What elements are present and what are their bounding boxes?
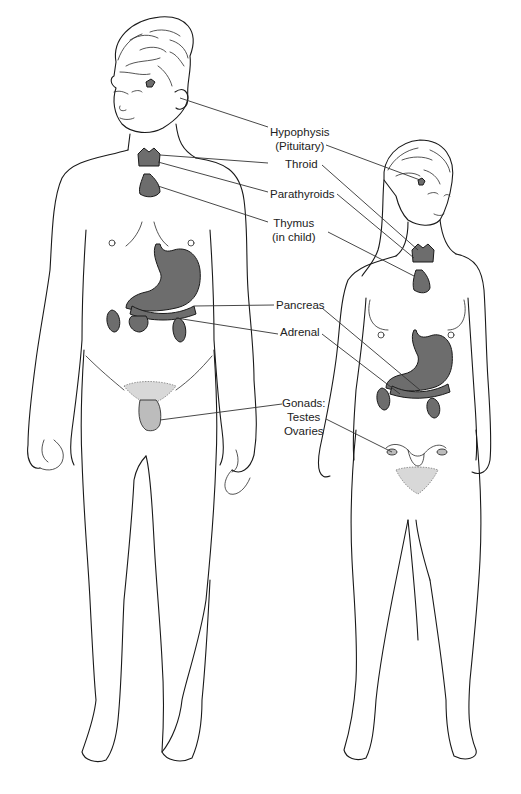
male-brain (118, 30, 188, 86)
label-parathyroids: Parathyroids (270, 187, 335, 201)
male-pituitary (146, 79, 155, 87)
label-adrenal: Adrenal (280, 325, 320, 339)
female-brain (388, 148, 450, 184)
male-thyroid (138, 148, 160, 166)
female-hair (362, 180, 384, 276)
female-kidney-right (427, 398, 440, 418)
male-testes (139, 400, 161, 431)
male-left-hand (40, 440, 63, 470)
label-thymus: Thymus (in child) (272, 216, 315, 244)
male-kidney-right (173, 318, 186, 342)
male-duodenum (129, 316, 148, 332)
male-thymus (139, 174, 160, 197)
female-stomach (386, 330, 452, 391)
label-thyroid: Throid (285, 157, 318, 171)
female-ovary-right (437, 449, 447, 455)
male-ear (175, 90, 188, 110)
female-uterus (386, 444, 446, 466)
female-kidney-left (377, 388, 390, 410)
male-face (114, 91, 142, 120)
female-pubic-hair (396, 467, 438, 494)
label-pancreas: Pancreas (276, 298, 325, 312)
female-thyroid (412, 244, 434, 262)
male-stomach (126, 244, 200, 311)
female-torso-outline (318, 254, 490, 477)
male-head-outline (111, 17, 193, 133)
male-kidney-left (107, 310, 120, 332)
male-figure (28, 17, 257, 762)
label-gonads: Gonads: Testes Ovaries (282, 396, 325, 438)
female-pituitary (418, 178, 425, 185)
label-hypophysis: Hypophysis (Pituitary) (270, 125, 329, 153)
endocrine-diagram (0, 0, 521, 794)
female-thymus (413, 270, 430, 293)
female-figure (318, 140, 490, 760)
